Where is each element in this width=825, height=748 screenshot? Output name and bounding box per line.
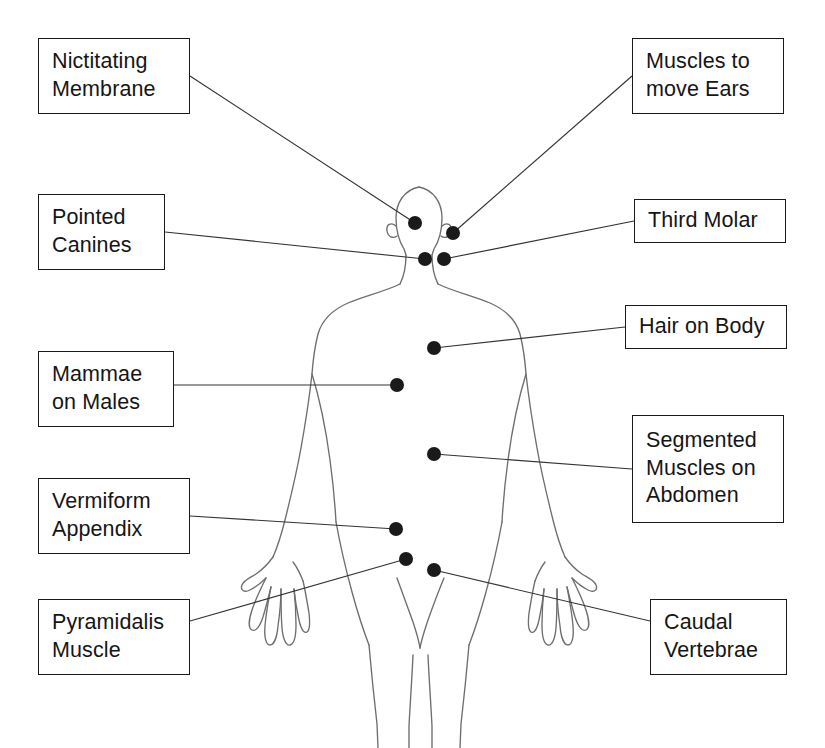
label-text-segmented-muscles-on-abdomen: Segmented Muscles on Abdomen	[646, 427, 772, 511]
marker-dot-segmented-muscles-on-abdomen	[427, 447, 441, 461]
leader-line-vermiform-appendix	[190, 516, 396, 529]
label-text-hair-on-body: Hair on Body	[639, 313, 775, 341]
label-text-third-molar: Third Molar	[648, 207, 774, 235]
leader-line-muscles-to-move-ears	[453, 76, 632, 233]
label-box-third-molar[interactable]: Third Molar	[634, 199, 786, 243]
marker-dots	[389, 216, 460, 577]
marker-dot-caudal-vertebrae	[427, 563, 441, 577]
human-body-outline	[241, 187, 596, 748]
leader-line-hair-on-body	[434, 327, 625, 348]
label-box-hair-on-body[interactable]: Hair on Body	[625, 305, 787, 349]
label-text-pyramidalis-muscle: Pyramidalis Muscle	[52, 609, 178, 665]
marker-dot-pyramidalis-muscle	[399, 552, 413, 566]
leader-line-pointed-canines	[165, 232, 425, 259]
label-text-pointed-canines: Pointed Canines	[52, 204, 153, 260]
label-text-muscles-to-move-ears: Muscles to move Ears	[646, 48, 772, 104]
label-box-segmented-muscles-on-abdomen[interactable]: Segmented Muscles on Abdomen	[632, 415, 784, 523]
marker-dot-mammae-on-males	[390, 378, 404, 392]
leader-line-pyramidalis-muscle	[190, 559, 406, 621]
label-text-mammae-on-males: Mammae on Males	[52, 361, 162, 417]
leader-line-segmented-muscles-on-abdomen	[434, 454, 632, 469]
leader-line-third-molar	[444, 221, 634, 259]
leader-line-nictitating-membrane	[190, 76, 415, 223]
leader-lines	[165, 76, 650, 621]
marker-dot-pointed-canines	[418, 252, 432, 266]
label-box-nictitating-membrane[interactable]: Nictitating Membrane	[38, 38, 190, 114]
marker-dot-nictitating-membrane	[408, 216, 422, 230]
vestigial-structures-diagram: Nictitating Membrane Muscles to move Ear…	[0, 0, 825, 748]
marker-dot-vermiform-appendix	[389, 522, 403, 536]
marker-dot-third-molar	[437, 252, 451, 266]
label-box-caudal-vertebrae[interactable]: Caudal Vertebrae	[650, 599, 787, 675]
label-box-pyramidalis-muscle[interactable]: Pyramidalis Muscle	[38, 599, 190, 675]
label-box-muscles-to-move-ears[interactable]: Muscles to move Ears	[632, 38, 784, 114]
label-box-mammae-on-males[interactable]: Mammae on Males	[38, 351, 174, 427]
marker-dot-muscles-to-move-ears	[446, 226, 460, 240]
marker-dot-hair-on-body	[427, 341, 441, 355]
label-box-vermiform-appendix[interactable]: Vermiform Appendix	[38, 478, 190, 554]
label-text-nictitating-membrane: Nictitating Membrane	[52, 48, 178, 104]
label-text-caudal-vertebrae: Caudal Vertebrae	[664, 609, 775, 665]
label-box-pointed-canines[interactable]: Pointed Canines	[38, 194, 165, 270]
label-text-vermiform-appendix: Vermiform Appendix	[52, 488, 178, 544]
